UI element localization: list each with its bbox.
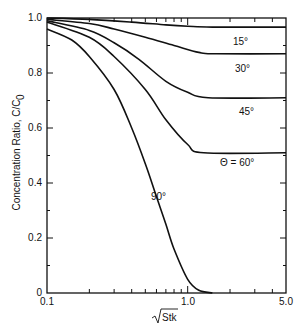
x-axis-title: Stk (152, 309, 178, 323)
x-tick-1.0: 1.0 (181, 296, 195, 307)
svg-text:Stk: Stk (162, 312, 177, 323)
curve-90 (47, 29, 212, 293)
x-tick-5.0: 5.0 (279, 296, 293, 307)
curve-45 (47, 21, 286, 98)
y-tick-0.6: 0.6 (28, 122, 42, 133)
ticks-group (47, 18, 286, 293)
curve-label-90: 90° (151, 191, 166, 202)
svg-text:Concentration Ratio, C/C: Concentration Ratio, C/C (11, 99, 22, 210)
y-axis-subscript: 0 (15, 94, 26, 100)
y-tick-1.0: 1.0 (28, 12, 42, 23)
curves-group (47, 18, 286, 293)
x-tick-0.1: 0.1 (40, 296, 54, 307)
curve-label-60: Θ = 60° (220, 157, 254, 168)
y-axis-title: Concentration Ratio, C/C (11, 99, 22, 210)
y-tick-0.8: 0.8 (28, 67, 42, 78)
curve-label-15: 15° (233, 36, 248, 47)
chart: 0 0.2 0.4 0.6 0.8 1.0 0.1 1.0 5.0 Stk Co… (0, 0, 304, 333)
curve-label-45: 45° (239, 106, 254, 117)
y-tick-0.2: 0.2 (28, 232, 42, 243)
curve-60 (47, 22, 286, 153)
y-tick-0.4: 0.4 (28, 177, 42, 188)
plot-frame (47, 18, 286, 293)
curve-label-30: 30° (235, 63, 250, 74)
